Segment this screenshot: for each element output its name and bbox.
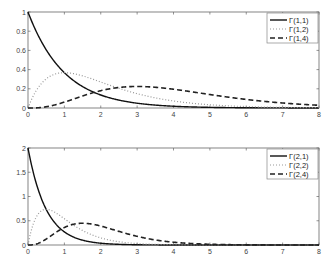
x-tick-label: 0 (26, 248, 30, 255)
legend-label: Γ(1,2) (289, 25, 309, 34)
x-tick-label: 7 (281, 111, 285, 118)
y-tick-label: 0.2 (16, 85, 26, 92)
legend-label: Γ(2,1) (289, 152, 309, 161)
legend-label: Γ(2,2) (289, 161, 309, 170)
gamma-distribution-figure: 01234567800.20.40.60.81Γ(1,1)Γ(1,2)Γ(1,4… (0, 0, 334, 278)
x-tick-label: 2 (99, 248, 103, 255)
y-tick-label: 0.4 (16, 66, 26, 73)
x-tick-label: 5 (208, 248, 212, 255)
x-tick-label: 1 (62, 111, 66, 118)
x-tick-label: 6 (244, 111, 248, 118)
subplot-1: 01234567800.20.40.60.81Γ(1,1)Γ(1,2)Γ(1,4… (16, 9, 321, 119)
x-tick-label: 3 (135, 111, 139, 118)
x-tick-label: 4 (172, 111, 176, 118)
series-line (28, 209, 319, 245)
x-tick-label: 8 (317, 111, 321, 118)
x-tick-label: 6 (244, 248, 248, 255)
y-tick-label: 0.8 (16, 28, 26, 35)
legend-label: Γ(1,4) (289, 34, 309, 43)
x-tick-label: 0 (26, 111, 30, 118)
y-tick-label: 1.5 (16, 169, 26, 176)
subplot-2: 01234567800.511.52Γ(2,1)Γ(2,2)Γ(2,4) (16, 145, 321, 256)
x-tick-label: 3 (135, 248, 139, 255)
legend: Γ(2,1)Γ(2,2)Γ(2,4) (267, 149, 318, 179)
legend-label: Γ(1,1) (289, 16, 309, 25)
y-tick-label: 1 (22, 193, 26, 200)
y-tick-label: 0.6 (16, 47, 26, 54)
y-tick-label: 0.5 (16, 217, 26, 224)
series-line (28, 223, 319, 245)
legend-label: Γ(2,4) (289, 170, 309, 179)
y-tick-label: 0 (22, 105, 26, 112)
legend: Γ(1,1)Γ(1,2)Γ(1,4) (267, 13, 318, 43)
x-tick-label: 1 (62, 248, 66, 255)
y-tick-label: 2 (22, 145, 26, 152)
y-tick-label: 1 (22, 9, 26, 16)
x-tick-label: 8 (317, 248, 321, 255)
x-tick-label: 2 (99, 111, 103, 118)
x-tick-label: 4 (172, 248, 176, 255)
y-tick-label: 0 (22, 242, 26, 249)
x-tick-label: 5 (208, 111, 212, 118)
series-line (28, 86, 319, 108)
x-tick-label: 7 (281, 248, 285, 255)
